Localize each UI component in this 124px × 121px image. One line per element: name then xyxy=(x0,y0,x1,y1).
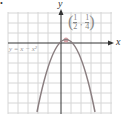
y-axis-arrow-icon xyxy=(59,9,64,15)
num: 1 xyxy=(73,14,77,22)
y-axis-label: y xyxy=(58,0,62,9)
vertex-label: ( 1 2 , 1 4 ) xyxy=(68,13,95,31)
equation-label: y = x − x² xyxy=(9,45,37,53)
den: 2 xyxy=(73,22,77,31)
curve xyxy=(37,40,95,113)
paren-close: ) xyxy=(89,13,94,31)
frac-x: 1 2 xyxy=(73,14,77,31)
parabola-plot: • xyxy=(0,0,124,121)
grid xyxy=(8,12,112,114)
bullet: • xyxy=(0,0,3,8)
sep: , xyxy=(80,18,82,27)
x-axis-label: x xyxy=(116,36,120,47)
